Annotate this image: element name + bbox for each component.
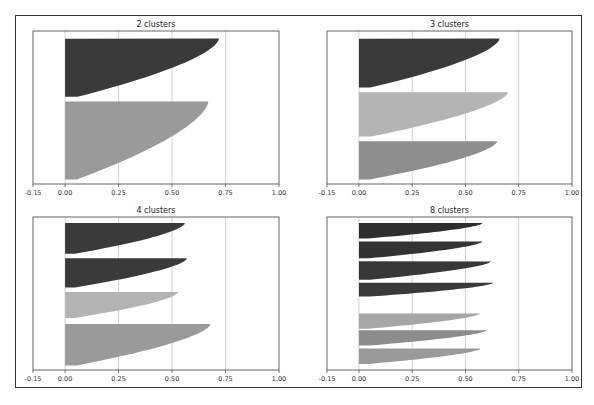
x-tick-label: -0.15 [319,375,336,383]
x-tick-label: 0.00 [352,375,366,383]
silhouette-band [350,330,486,345]
x-tick-label: -0.15 [25,375,42,383]
chart-2-clusters: 2 clusters-0.150.000.250.500.751.00 [13,15,299,204]
x-tick-label: 0.00 [58,189,72,197]
silhouette-band [359,261,491,279]
silhouette-band [65,101,208,179]
x-tick-label: 0.25 [111,189,125,197]
x-tick-label: 0.50 [458,375,472,383]
silhouette-band [359,92,508,136]
silhouette-band [355,241,483,258]
x-tick-label: 0.25 [405,189,419,197]
silhouette-band [65,292,178,318]
x-tick-label: -0.15 [25,189,42,197]
x-tick-label: -0.15 [319,189,336,197]
chart-8-clusters: 8 clusters-0.150.000.250.500.751.00 [307,201,592,390]
chart-title: 4 clusters [136,206,175,215]
x-tick-label: 0.75 [218,189,232,197]
chart-title: 2 clusters [136,20,175,29]
chart-3-clusters: 3 clusters-0.150.000.250.500.751.00 [307,15,592,204]
x-tick-label: 0.50 [165,189,179,197]
silhouette-band [65,39,219,97]
chart-title: 3 clusters [430,20,469,29]
silhouette-band [359,283,493,297]
x-tick-label: 1.00 [272,375,286,383]
x-tick-label: 0.75 [511,189,525,197]
silhouette-band [359,223,483,238]
silhouette-band [359,39,500,88]
chart-title: 8 clusters [430,206,469,215]
x-tick-label: 1.00 [565,375,579,383]
x-tick-label: 0.00 [58,375,72,383]
x-tick-label: 0.25 [405,375,419,383]
silhouette-band [61,223,185,254]
silhouette-band [359,313,480,328]
silhouette-band [359,141,497,179]
chart-4-clusters: 4 clusters-0.150.000.250.500.751.00 [13,201,299,390]
x-tick-label: 1.00 [272,189,286,197]
silhouette-band [65,258,187,287]
silhouette-band [357,349,481,364]
x-tick-label: 0.50 [458,189,472,197]
silhouette-band [63,324,211,365]
x-tick-label: 0.25 [111,375,125,383]
x-tick-label: 0.75 [511,375,525,383]
x-tick-label: 0.50 [165,375,179,383]
x-tick-label: 0.00 [352,189,366,197]
x-tick-label: 0.75 [218,375,232,383]
x-tick-label: 1.00 [565,189,579,197]
